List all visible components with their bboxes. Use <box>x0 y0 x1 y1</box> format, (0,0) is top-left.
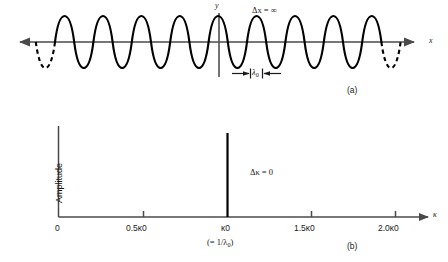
tick-label-0p5k0: 0.5κ0 <box>126 224 147 233</box>
wavelength-label: λ0 <box>252 68 259 78</box>
panel-a-group <box>20 13 414 79</box>
tick-label-k0-text: κ0 <box>221 223 230 233</box>
peak-sublabel-close: ) <box>231 237 234 247</box>
delta-kappa-annotation: Δκ = 0 <box>250 168 273 177</box>
tick-label-2p0k0-text: 2.0κ0 <box>378 223 399 233</box>
tick-label-2p0k0: 2.0κ0 <box>378 224 399 233</box>
wave-dashed-left <box>36 42 55 68</box>
tick-label-k0: κ0 <box>221 224 230 233</box>
delta-x-annotation: Δx = ∞ <box>252 6 277 15</box>
wave-dashed-right <box>381 42 400 68</box>
peak-sublabel: (= 1/λ0) <box>207 238 233 248</box>
fourier-transform-figure: y x Δx = ∞ λ0 (a) Amplitude Δκ = 0 0 0.5… <box>0 0 448 262</box>
tick-label-1p5k0-text: 1.5κ0 <box>294 223 315 233</box>
peak-sublabel-open: (= 1/λ <box>207 237 227 247</box>
tick-label-origin: 0 <box>55 224 60 233</box>
panel-a-label: (a) <box>347 86 357 95</box>
tick-label-1p5k0: 1.5κ0 <box>294 224 315 233</box>
panel-b-y-axis-label: Amplitude <box>54 163 64 203</box>
panel-b-group <box>59 126 429 217</box>
wavelength-subscript: 0 <box>256 72 259 78</box>
panel-a-y-axis-label: y <box>215 2 219 10</box>
panel-b-label: (b) <box>347 242 357 251</box>
tick-label-0p5k0-text: 0.5κ0 <box>126 223 147 233</box>
panel-b-x-axis-label: κ <box>433 211 437 219</box>
panel-a-x-axis-label: x <box>429 37 433 45</box>
